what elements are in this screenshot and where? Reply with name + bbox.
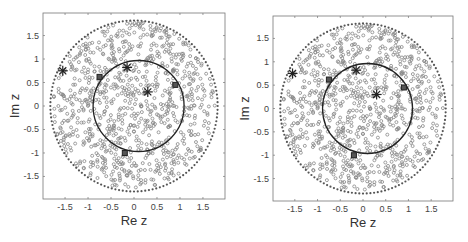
x-tick-label: 1 <box>177 202 182 212</box>
asterisk-marker <box>122 62 132 72</box>
x-tick-label: -1 <box>84 202 92 212</box>
x-tick-label: -1 <box>314 204 322 214</box>
scatter-plot-left: -1.5-1-0.500.511.51.510.50-0.5-1-1.5Re z… <box>0 0 234 242</box>
x-tick-label: 0 <box>360 204 365 214</box>
y-tick-label: 1 <box>264 57 269 67</box>
chart-panel-right: -1.5-1-0.500.511.51.510.50-0.5-1-1.5Re z… <box>234 0 468 242</box>
asterisk-marker <box>143 87 153 97</box>
y-tick-label: -1.5 <box>23 171 39 181</box>
x-tick-label: 1 <box>406 204 411 214</box>
x-tick-label: 0.5 <box>151 202 164 212</box>
scatter-plot-right: -1.5-1-0.500.511.51.510.50-0.5-1-1.5Re z… <box>234 0 468 242</box>
y-axis-label: Im z <box>237 96 252 121</box>
y-tick-label: 1.5 <box>26 31 39 41</box>
x-tick-label: -0.5 <box>333 204 349 214</box>
plot-area <box>279 22 447 194</box>
asterisk-marker <box>372 89 382 99</box>
y-axis-label: Im z <box>7 94 22 119</box>
square-marker <box>326 77 331 82</box>
x-tick-label: 1.5 <box>425 204 438 214</box>
y-tick-label: -0.5 <box>23 124 39 134</box>
x-axis-label: Re z <box>350 215 377 230</box>
x-axis-label: Re z <box>121 213 148 228</box>
y-tick-label: 0 <box>34 101 39 111</box>
x-tick-label: -0.5 <box>103 202 119 212</box>
x-tick-label: 0.5 <box>379 204 392 214</box>
data-points <box>52 21 216 189</box>
y-tick-label: 0.5 <box>26 78 39 88</box>
y-tick-label: 0.5 <box>256 80 269 90</box>
square-marker <box>401 85 406 90</box>
x-tick-label: 1.5 <box>197 202 210 212</box>
y-tick-label: -1 <box>261 150 269 160</box>
y-tick-label: 1 <box>34 54 39 64</box>
square-marker <box>122 150 127 155</box>
y-tick-label: 0 <box>264 104 269 114</box>
y-tick-label: 1.5 <box>256 33 269 43</box>
x-tick-label: -1.5 <box>57 202 73 212</box>
y-tick-label: -1.5 <box>253 174 269 184</box>
square-marker <box>97 74 102 79</box>
chart-panel-left: -1.5-1-0.500.511.51.510.50-0.5-1-1.5Re z… <box>0 0 234 242</box>
asterisk-marker <box>58 66 68 76</box>
plot-area <box>49 19 218 192</box>
x-tick-label: 0 <box>131 202 136 212</box>
asterisk-marker <box>351 65 361 75</box>
axes-box <box>273 16 453 201</box>
asterisk-marker <box>288 68 298 78</box>
x-tick-label: -1.5 <box>287 204 303 214</box>
square-marker <box>173 82 178 87</box>
data-points <box>282 24 444 191</box>
axes-box <box>43 13 225 199</box>
y-tick-label: -0.5 <box>253 127 269 137</box>
y-tick-label: -1 <box>31 148 39 158</box>
square-marker <box>351 153 356 158</box>
